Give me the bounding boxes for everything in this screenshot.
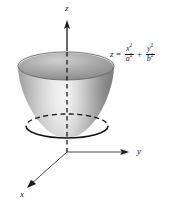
surface-equation: z = x2 a2 + y2 b2 [110, 45, 156, 64]
equation-term-1-denominator-exponent: 2 [130, 53, 133, 59]
axis-x-line [31, 152, 67, 184]
paraboloid-diagram-svg [0, 0, 180, 208]
axis-label-y: y [137, 147, 141, 156]
axis-z [64, 20, 70, 53]
equation-term-2-denominator: b2 [146, 55, 155, 63]
equation-term-2-denominator-exponent: 2 [151, 53, 154, 59]
equation-plus-sign: + [137, 50, 142, 59]
equation-equals-sign: = [116, 50, 121, 59]
axis-label-x: x [20, 190, 24, 199]
elliptic-paraboloid-surface [0, 50, 180, 145]
equation-term-2-numerator-exponent: 2 [151, 42, 154, 48]
equation-term-1-denominator: a2 [125, 55, 134, 63]
axis-x [27, 152, 67, 188]
axis-y [67, 149, 129, 155]
equation-term-2: y2 b2 [146, 45, 155, 64]
equation-term-1: x2 a2 [125, 45, 134, 64]
paraboloid-figure: z y x z = x2 a2 + y2 b2 [0, 0, 180, 208]
axis-label-z: z [65, 4, 69, 13]
equation-lhs: z [110, 50, 114, 59]
equation-term-1-numerator-exponent: 2 [130, 42, 133, 48]
